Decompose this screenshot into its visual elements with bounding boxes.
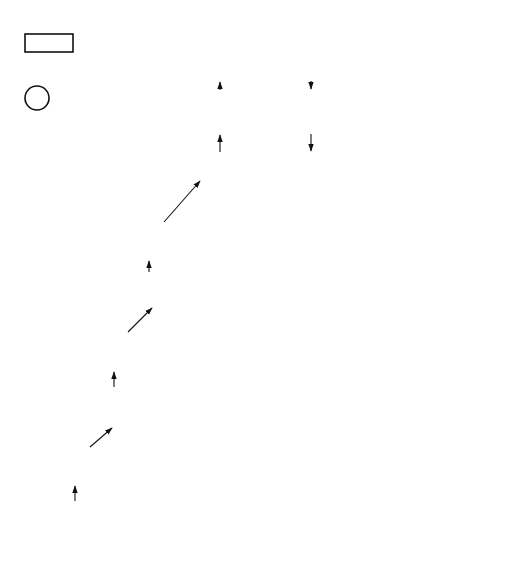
- decision-ladder-diagram: [0, 0, 506, 561]
- connectors: [75, 81, 322, 501]
- legend: [25, 34, 73, 110]
- legend-circle-icon: [25, 86, 49, 110]
- legend-rect-icon: [25, 34, 73, 52]
